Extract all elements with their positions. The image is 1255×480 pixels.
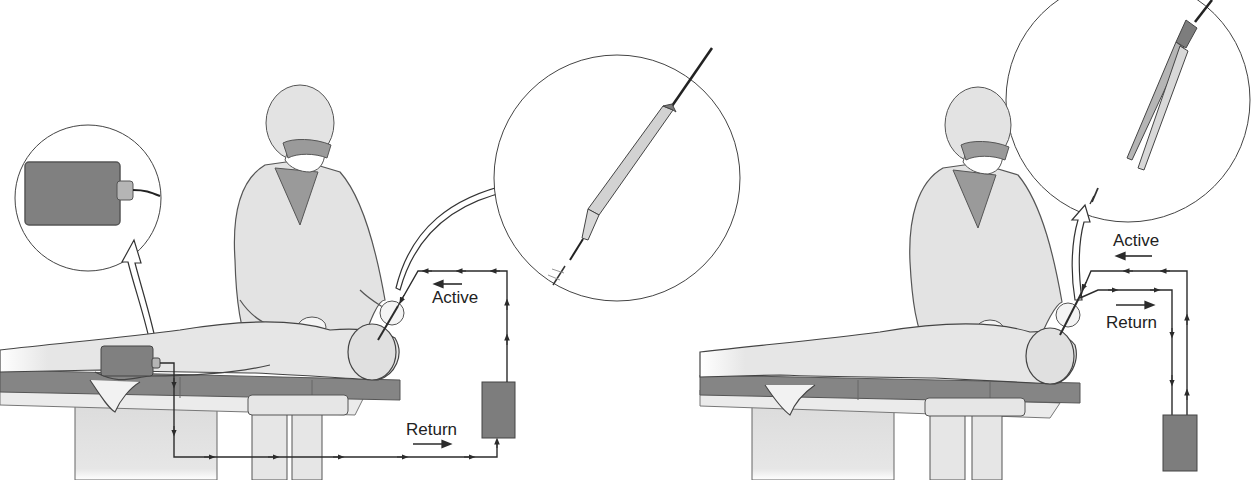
callout-arrow-icon [1072, 205, 1090, 300]
active-electrode-inset [494, 48, 740, 301]
generator-unit [482, 382, 515, 438]
dispersive-pad-icon [25, 162, 120, 225]
active-label: Active [1113, 232, 1159, 249]
dispersive-return-pad [101, 346, 160, 376]
generator-unit [1163, 415, 1197, 471]
bipolar-forceps-inset [1006, 0, 1250, 222]
electrosurgery-diagram: Active Return Active Return [0, 0, 1255, 480]
active-label: Active [432, 289, 478, 306]
return-label: Return [406, 421, 457, 438]
operating-table [0, 370, 400, 480]
return-pad-inset [15, 125, 161, 271]
bipolar-panel [700, 0, 1250, 480]
surgeon [234, 85, 404, 480]
operating-table [700, 375, 1080, 480]
return-label: Return [1106, 314, 1157, 331]
monopolar-panel [0, 48, 740, 480]
return-circuit [1080, 290, 1172, 415]
